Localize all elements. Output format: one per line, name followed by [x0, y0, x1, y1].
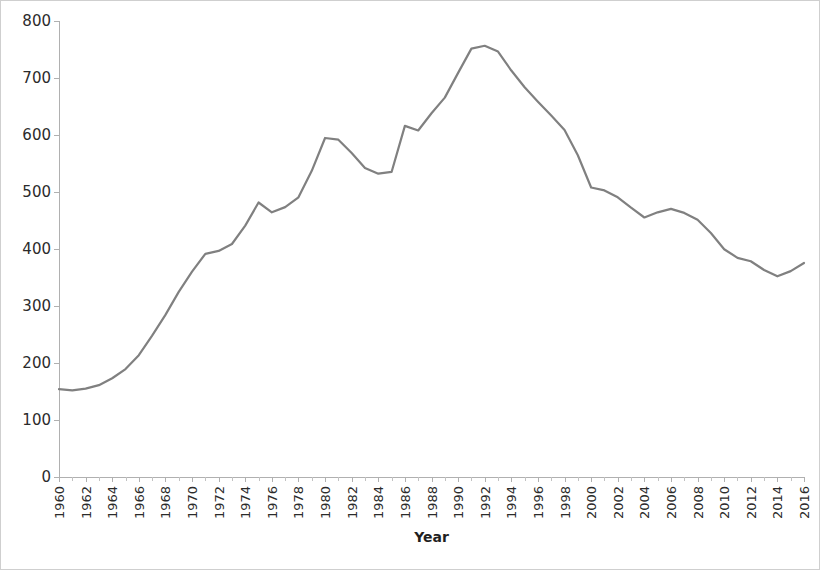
x-tick-mark: [232, 477, 233, 481]
x-tick-mark: [604, 477, 605, 481]
plot-area: 0100200300400500600700800 19601962196419…: [59, 21, 804, 482]
y-tick-label: 400: [22, 242, 51, 257]
x-tick-mark: [139, 477, 140, 482]
x-tick-mark: [751, 477, 752, 482]
y-tick-label: 200: [22, 356, 51, 371]
x-tick-label: 1982: [345, 486, 358, 519]
x-tick-mark: [684, 477, 685, 481]
x-tick-mark: [325, 477, 326, 482]
x-tick-mark: [298, 477, 299, 482]
x-tick-label: 1966: [132, 486, 145, 519]
x-tick-mark: [99, 477, 100, 481]
x-tick-mark: [485, 477, 486, 482]
x-tick-label: 2004: [638, 486, 651, 519]
y-tick-label: 300: [22, 299, 51, 314]
x-tick-label: 2016: [798, 486, 811, 519]
x-tick-mark: [538, 477, 539, 482]
x-tick-mark: [285, 477, 286, 481]
x-tick-mark: [259, 477, 260, 481]
y-tick-label: 700: [22, 71, 51, 86]
x-tick-mark: [737, 477, 738, 481]
x-tick-mark: [272, 477, 273, 482]
x-tick-mark: [86, 477, 87, 482]
x-tick-label: 1984: [372, 486, 385, 519]
x-tick-mark: [658, 477, 659, 481]
x-tick-label: 2000: [585, 486, 598, 519]
x-tick-label: 1974: [239, 486, 252, 519]
x-tick-mark: [644, 477, 645, 482]
x-tick-mark: [711, 477, 712, 481]
x-tick-mark: [698, 477, 699, 482]
x-tick-label: 2002: [611, 486, 624, 519]
x-tick-label: 1986: [398, 486, 411, 519]
x-tick-mark: [458, 477, 459, 482]
x-tick-mark: [764, 477, 765, 481]
x-tick-label: 1968: [159, 486, 172, 519]
x-tick-mark: [165, 477, 166, 482]
chart-figure: 0100200300400500600700800 19601962196419…: [0, 0, 820, 570]
x-tick-label: 1988: [425, 486, 438, 519]
x-tick-mark: [418, 477, 419, 481]
data-line-series-1: [59, 46, 804, 391]
x-tick-label: 1998: [558, 486, 571, 519]
x-tick-label: 2006: [664, 486, 677, 519]
y-tick-label: 500: [22, 185, 51, 200]
x-tick-mark: [72, 477, 73, 481]
x-tick-label: 1994: [505, 486, 518, 519]
x-tick-mark: [338, 477, 339, 481]
x-tick-label: 2012: [744, 486, 757, 519]
x-tick-mark: [365, 477, 366, 481]
x-tick-mark: [432, 477, 433, 482]
y-tick-label: 600: [22, 128, 51, 143]
x-tick-label: 1976: [265, 486, 278, 519]
series-line-chart: [59, 21, 804, 482]
x-tick-mark: [405, 477, 406, 482]
x-tick-mark: [245, 477, 246, 482]
x-tick-label: 1980: [319, 486, 332, 519]
x-tick-label: 1960: [53, 486, 66, 519]
x-tick-mark: [511, 477, 512, 482]
x-tick-label: 1964: [106, 486, 119, 519]
x-tick-mark: [205, 477, 206, 481]
x-tick-mark: [312, 477, 313, 481]
x-tick-mark: [378, 477, 379, 482]
y-tick-label: 0: [41, 470, 51, 485]
x-tick-mark: [804, 477, 805, 482]
x-tick-mark: [591, 477, 592, 482]
x-tick-mark: [126, 477, 127, 481]
x-tick-mark: [791, 477, 792, 481]
x-tick-label: 2014: [771, 486, 784, 519]
x-tick-mark: [59, 477, 60, 482]
x-tick-mark: [631, 477, 632, 481]
x-tick-mark: [777, 477, 778, 482]
x-tick-mark: [152, 477, 153, 481]
x-tick-label: 1970: [186, 486, 199, 519]
plot-frame: 0100200300400500600700800 19601962196419…: [59, 21, 804, 482]
x-tick-mark: [112, 477, 113, 482]
x-tick-label: 1972: [212, 486, 225, 519]
y-tick-label: 800: [22, 14, 51, 29]
x-tick-mark: [498, 477, 499, 481]
x-tick-mark: [445, 477, 446, 481]
x-tick-label: 2010: [718, 486, 731, 519]
x-tick-mark: [618, 477, 619, 482]
x-tick-label: 1992: [478, 486, 491, 519]
x-tick-mark: [392, 477, 393, 481]
x-tick-mark: [565, 477, 566, 482]
x-tick-mark: [192, 477, 193, 482]
x-tick-mark: [578, 477, 579, 481]
x-tick-mark: [671, 477, 672, 482]
x-tick-label: 1978: [292, 486, 305, 519]
x-tick-mark: [219, 477, 220, 482]
x-tick-mark: [352, 477, 353, 482]
x-tick-mark: [179, 477, 180, 481]
x-tick-mark: [471, 477, 472, 481]
x-tick-label: 1990: [452, 486, 465, 519]
y-tick-label: 100: [22, 413, 51, 428]
x-axis-title: Year: [59, 529, 804, 545]
x-tick-label: 2008: [691, 486, 704, 519]
x-tick-mark: [724, 477, 725, 482]
x-tick-label: 1962: [79, 486, 92, 519]
x-tick-mark: [525, 477, 526, 481]
x-tick-mark: [551, 477, 552, 481]
